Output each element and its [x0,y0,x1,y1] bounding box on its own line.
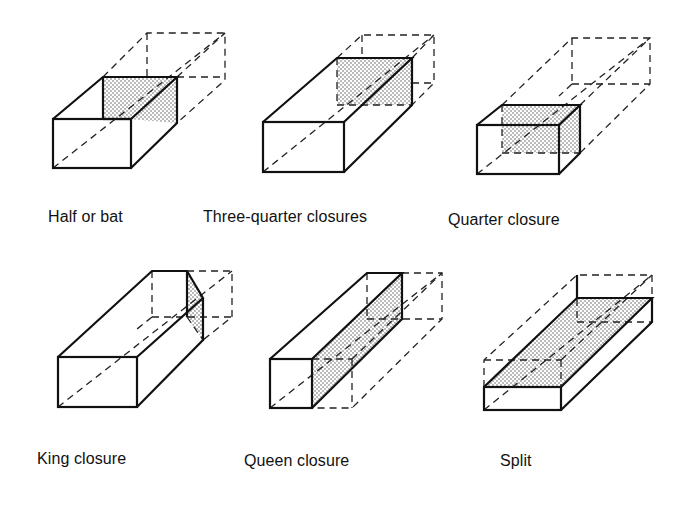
label-split: Split [500,452,532,470]
half-or-bat-figure [53,33,225,168]
brick-closures-diagram [0,0,692,509]
king-closure-figure [58,271,232,407]
label-queen-closure: Queen closure [244,452,349,470]
split-figure [484,275,652,410]
quarter-closure-figure [477,38,650,174]
label-three-quarter-closures: Three-quarter closures [203,208,367,226]
queen-closure-figure [270,273,442,408]
label-quarter-closure: Quarter closure [448,211,560,229]
label-half-or-bat: Half or bat [48,208,123,226]
label-king-closure: King closure [37,450,126,468]
three-quarter-closure-figure [263,35,434,172]
